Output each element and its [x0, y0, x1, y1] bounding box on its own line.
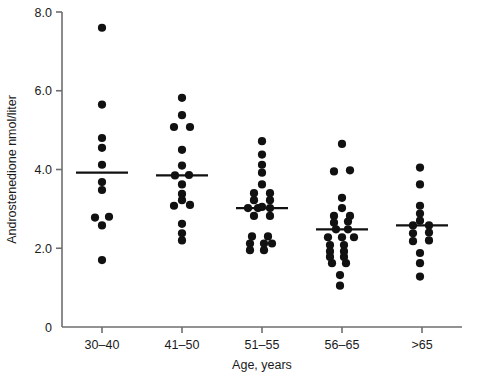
data-point: [338, 204, 346, 212]
data-point: [178, 180, 186, 188]
x-tick-label-2: 41–50: [165, 338, 200, 352]
data-point: [260, 246, 268, 254]
data-point: [338, 140, 346, 148]
data-point: [416, 217, 424, 225]
data-point: [98, 178, 106, 186]
x-tick-label-3: 51–55: [245, 338, 280, 352]
y-tick-label: 2.0: [35, 242, 52, 256]
data-point: [105, 213, 113, 221]
data-point: [178, 236, 186, 244]
data-point: [338, 233, 346, 241]
data-point: [266, 189, 274, 197]
data-point: [248, 232, 256, 240]
data-point: [264, 232, 272, 240]
series-group-5: [396, 163, 448, 280]
data-point: [344, 217, 352, 225]
series-group-2: [156, 94, 208, 245]
data-point: [416, 259, 424, 267]
data-point: [178, 111, 186, 119]
data-point: [416, 210, 424, 218]
plot-area: 02.04.06.08.030–4041–5051–5556–65>65Age,…: [0, 0, 486, 380]
data-point: [178, 146, 186, 154]
data-point: [178, 161, 186, 169]
data-point: [98, 221, 106, 229]
y-tick-label: 0: [45, 321, 52, 335]
data-point: [258, 169, 266, 177]
data-point: [250, 196, 258, 204]
y-tick-label: 6.0: [35, 84, 52, 98]
data-point: [178, 220, 186, 228]
data-point: [336, 282, 344, 290]
data-point: [266, 212, 274, 220]
data-point: [330, 167, 338, 175]
data-point: [98, 161, 106, 169]
data-point: [178, 94, 186, 102]
data-point: [409, 229, 417, 237]
y-axis-title: Androstenedione nmol/liter: [5, 95, 19, 244]
data-point: [98, 134, 106, 142]
data-point: [350, 233, 358, 241]
data-point: [178, 229, 186, 237]
x-axis-title: Age, years: [232, 358, 292, 372]
x-tick-label-4: 56–65: [325, 338, 360, 352]
data-point: [342, 259, 350, 267]
data-point: [416, 273, 424, 281]
data-point: [98, 144, 106, 152]
data-point: [170, 123, 178, 131]
data-point: [338, 194, 346, 202]
data-point: [98, 100, 106, 108]
scatter-chart-figure: 02.04.06.08.030–4041–5051–5556–65>65Age,…: [0, 0, 486, 380]
data-point: [336, 271, 344, 279]
data-point: [258, 150, 266, 158]
series-group-4: [316, 140, 368, 290]
data-point: [98, 256, 106, 264]
data-point: [416, 180, 424, 188]
data-point: [258, 137, 266, 145]
data-point: [170, 202, 178, 210]
data-point: [98, 186, 106, 194]
data-point: [258, 180, 266, 188]
x-tick-label-5: >65: [411, 338, 432, 352]
data-point: [416, 202, 424, 210]
data-point: [186, 201, 194, 209]
data-point: [246, 246, 254, 254]
data-point: [258, 161, 266, 169]
data-point: [186, 123, 194, 131]
data-point: [324, 233, 332, 241]
series-group-3: [236, 137, 288, 254]
data-point: [250, 212, 258, 220]
data-point: [178, 196, 186, 204]
data-point: [250, 189, 258, 197]
data-point: [268, 239, 276, 247]
data-point: [425, 236, 433, 244]
x-tick-label-1: 30–40: [85, 338, 120, 352]
data-point: [416, 163, 424, 171]
y-tick-label: 8.0: [35, 6, 52, 20]
data-point: [425, 228, 433, 236]
data-point: [346, 166, 354, 174]
data-point: [409, 237, 417, 245]
data-point: [91, 213, 99, 221]
data-point: [328, 259, 336, 267]
series-group-1: [76, 24, 128, 265]
y-tick-label: 4.0: [35, 163, 52, 177]
data-point: [416, 249, 424, 257]
data-point: [98, 24, 106, 32]
data-point: [266, 196, 274, 204]
